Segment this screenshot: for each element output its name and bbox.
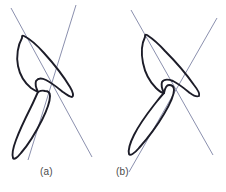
figure-root: (a) (b) bbox=[0, 0, 226, 192]
panel-b-major-axis-line bbox=[131, 10, 213, 155]
panel-a-drawing bbox=[0, 0, 113, 192]
panel-b-caption: (b) bbox=[66, 166, 179, 178]
panel-b-lower-leaf-outline bbox=[129, 85, 174, 155]
panel-b-drawing bbox=[113, 0, 226, 192]
panel-b: (b) bbox=[113, 0, 226, 192]
panel-a: (a) bbox=[0, 0, 113, 192]
panel-a-upper-leaf-outline bbox=[17, 36, 73, 97]
